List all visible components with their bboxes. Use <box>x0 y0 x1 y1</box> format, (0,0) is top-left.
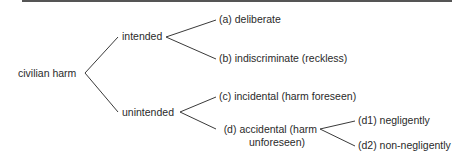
node-accidental: (d) accidental (harm unforeseen) <box>219 123 317 149</box>
edge-intended-b <box>166 37 216 59</box>
node-indiscriminate: (b) indiscriminate (reckless) <box>219 52 347 65</box>
edge-root-unintended <box>85 73 118 112</box>
edge-unintended-d <box>180 112 216 129</box>
edge-unintended-c <box>180 97 216 112</box>
node-accidental-line2: unforeseen) <box>219 136 317 149</box>
node-negligently: (d1) negligently <box>358 114 430 127</box>
node-intended: intended <box>122 30 162 43</box>
node-accidental-line1: (d) accidental (harm <box>219 123 317 136</box>
edge-root-intended <box>85 37 118 73</box>
node-deliberate: (a) deliberate <box>219 13 281 26</box>
edge-d-d1 <box>320 121 355 129</box>
node-incidental: (c) incidental (harm foreseen) <box>219 90 356 103</box>
node-non-negligently: (d2) non-negligently <box>358 139 451 152</box>
node-unintended: unintended <box>122 106 174 119</box>
edge-intended-a <box>166 20 216 37</box>
edge-d-d2 <box>320 129 355 146</box>
node-civilian-harm: civilian harm <box>18 67 76 80</box>
